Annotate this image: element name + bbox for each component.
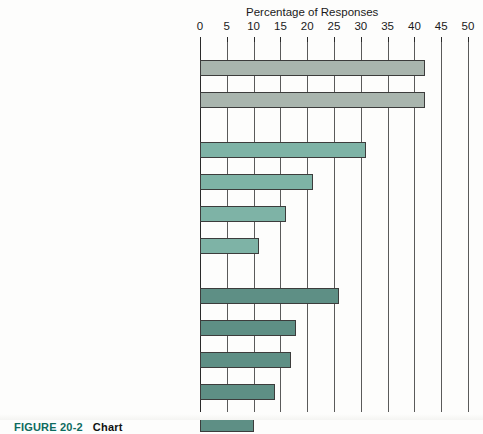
bar[interactable] (200, 288, 339, 304)
gridline-50 (468, 42, 469, 412)
figure-container: Percentage of Responses 0510152025303540… (0, 0, 483, 434)
bar[interactable] (200, 92, 425, 108)
chart-axis-title: Percentage of Responses (246, 6, 378, 18)
tick-label-45: 45 (435, 20, 448, 32)
figure-caption-label: FIGURE 20-2 (14, 421, 83, 433)
figure-caption-text: Chart (83, 421, 123, 433)
bar-row (200, 238, 468, 254)
tick-label-10: 10 (247, 20, 260, 32)
tick-label-50: 50 (462, 20, 475, 32)
bar-row (200, 288, 468, 304)
bar[interactable] (200, 206, 286, 222)
bar[interactable] (200, 60, 425, 76)
tick-label-15: 15 (274, 20, 287, 32)
bar[interactable] (200, 142, 366, 158)
scan-edge-fade (0, 414, 483, 420)
bar-row (200, 320, 468, 336)
bar-row (200, 142, 468, 158)
bar-row (200, 206, 468, 222)
bar[interactable] (200, 320, 296, 336)
tick-label-30: 30 (354, 20, 367, 32)
tick-label-0: 0 (197, 20, 203, 32)
tick-label-25: 25 (328, 20, 341, 32)
tick-label-5: 5 (224, 20, 230, 32)
bar-row (200, 60, 468, 76)
bar[interactable] (200, 352, 291, 368)
bar[interactable] (200, 174, 313, 190)
bar-row (200, 352, 468, 368)
figure-caption: FIGURE 20-2Chart (14, 421, 123, 434)
tick-label-40: 40 (408, 20, 421, 32)
tick-label-35: 35 (381, 20, 394, 32)
plot-area (200, 42, 468, 412)
bar-row (200, 92, 468, 108)
bar-row (200, 384, 468, 400)
bar[interactable] (200, 384, 275, 400)
bar-row (200, 174, 468, 190)
bar[interactable] (200, 238, 259, 254)
tick-label-20: 20 (301, 20, 314, 32)
